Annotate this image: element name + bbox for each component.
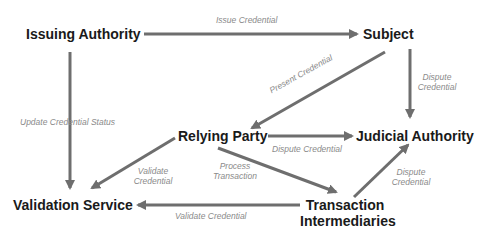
label-update-status: Update Credential Status bbox=[20, 117, 115, 127]
label-issue-credential: Issue Credential bbox=[216, 15, 277, 25]
node-relying-party: Relying Party bbox=[178, 128, 267, 144]
label-ti-dispute-line1: Dispute bbox=[386, 167, 436, 177]
label-rp-validate-line2: Credential bbox=[128, 176, 178, 186]
label-ti-dispute: Dispute Credential bbox=[386, 167, 436, 187]
node-subject: Subject bbox=[363, 26, 414, 42]
label-subject-dispute-line1: Dispute bbox=[412, 72, 462, 82]
label-rp-validate: Validate Credential bbox=[128, 166, 178, 186]
label-process-transaction: Process Transaction bbox=[208, 161, 262, 181]
label-process-line2: Transaction bbox=[208, 171, 262, 181]
node-transaction-line2: Intermediaries bbox=[300, 213, 390, 229]
node-validation-service: Validation Service bbox=[13, 197, 133, 213]
label-rp-validate-line1: Validate bbox=[128, 166, 178, 176]
diagram-canvas: Issuing Authority Subject Relying Party … bbox=[0, 0, 483, 236]
label-ti-validate: Validate Credential bbox=[175, 211, 247, 221]
label-subject-dispute-line2: Credential bbox=[412, 82, 462, 92]
node-transaction-intermediaries: Transaction Intermediaries bbox=[300, 197, 390, 229]
node-judicial-authority: Judicial Authority bbox=[356, 128, 474, 144]
label-ti-dispute-line2: Credential bbox=[386, 177, 436, 187]
node-issuing-authority: Issuing Authority bbox=[26, 26, 141, 42]
label-rp-dispute: Dispute Credential bbox=[272, 144, 342, 154]
node-transaction-line1: Transaction bbox=[300, 197, 390, 213]
label-subject-dispute: Dispute Credential bbox=[412, 72, 462, 92]
label-process-line1: Process bbox=[208, 161, 262, 171]
